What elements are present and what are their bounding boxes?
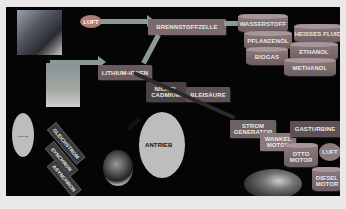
biogas-tank: BIOGAS — [246, 47, 288, 65]
luft-right-label: LUFT — [319, 149, 340, 155]
methanol-label: METHANOL — [284, 65, 336, 71]
biogas-label: BIOGAS — [246, 54, 288, 60]
brennstoffzelle-node: BRENNSTOFFZELLE — [148, 19, 226, 35]
brennstoffzelle-label: BRENNSTOFFZELLE — [148, 24, 226, 30]
landscape-image — [46, 63, 80, 107]
otto-motor-tank: OTTO MOTOR — [284, 143, 318, 167]
arrow-wasserstoff-brennstoffzelle — [224, 21, 238, 26]
diesel-motor-tank: DIESEL MOTOR — [312, 167, 340, 191]
diagram-slide: LUFT BRENNSTOFFZELLE WASSERSTOFF PFLANZE… — [6, 7, 340, 196]
methanol-tank: METHANOL — [284, 58, 336, 76]
pflanzenoel-label: PFLANZENÖL — [244, 38, 292, 44]
luft-right-node: LUFT — [319, 143, 340, 161]
radnabe-label: RADNABE — [12, 133, 34, 139]
arrow-antrieb — [127, 117, 142, 130]
antrieb-label: ANTRIEB — [145, 142, 172, 148]
engine-image — [244, 169, 302, 196]
arrow-brennstoffzelle-lithium — [141, 34, 160, 65]
electric-motor-image — [103, 150, 133, 186]
luft-top-node: LUFT — [80, 15, 102, 28]
otto-motor-sub-label: MOTOR — [290, 157, 313, 163]
heisses-fluid-label: HEISSES FLUID — [294, 31, 340, 37]
wasserstoff-label: WASSERSTOFF — [238, 21, 288, 27]
heisses-fluid-tank: HEISSES FLUID — [294, 24, 340, 42]
arrow-luft-brennstoffzelle — [101, 19, 149, 24]
arrow-landscape-lithium — [50, 60, 100, 65]
diesel-motor-sub-label: MOTOR — [316, 181, 339, 187]
wasserstoff-tank: WASSERSTOFF — [238, 14, 288, 32]
luft-top-label: LUFT — [80, 19, 102, 25]
otto-motor-label: OTTO MOTOR — [284, 151, 318, 163]
antrieb-node: ANTRIEB — [139, 112, 185, 178]
diesel-motor-label: DIESEL MOTOR — [312, 175, 340, 187]
solar-panel-image — [17, 10, 62, 55]
gasturbine-label: GASTURBINE — [290, 126, 340, 132]
ethanol-label: ETHANOL — [290, 49, 338, 55]
radnabe-ellipse: RADNABE — [12, 113, 34, 157]
gasturbine-node: GASTURBINE — [290, 121, 340, 137]
